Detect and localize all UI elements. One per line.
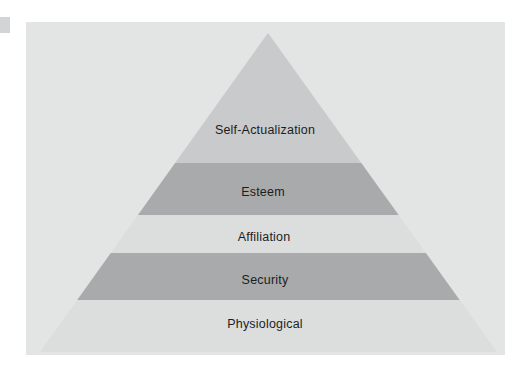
tier-label-4: Esteem xyxy=(241,185,285,199)
page-root: Self-ActualizationEsteemAffiliationSecur… xyxy=(0,0,530,382)
tier-label-1: Physiological xyxy=(227,317,303,331)
pyramid-tier-5 xyxy=(175,33,361,163)
tier-label-3: Affiliation xyxy=(238,230,291,244)
tier-label-2: Security xyxy=(242,273,289,287)
tier-label-5: Self-Actualization xyxy=(215,123,315,137)
